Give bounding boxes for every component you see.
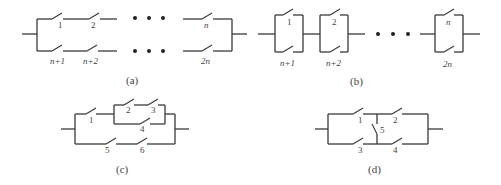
switch-label: 4: [393, 145, 398, 155]
switch-label: 6: [140, 145, 145, 155]
switch-icon: [353, 108, 363, 114]
switch-label: 5: [105, 145, 110, 155]
switch-icon: [106, 138, 116, 144]
switch-label: 2: [126, 105, 131, 115]
switch-label: 2: [393, 115, 398, 125]
panel-c-wires: [61, 105, 189, 144]
switch-icon: [330, 9, 340, 15]
switch-label: 2: [91, 20, 96, 30]
switch-label: 1: [287, 17, 292, 27]
switch-icon: [283, 9, 293, 15]
panel-a: 1 2 n n+1 n+2 2n (a): [22, 13, 247, 87]
panel-c-switches: [86, 99, 158, 144]
switch-label: 3: [151, 105, 156, 115]
panel-caption: (a): [126, 74, 139, 87]
switch-icon: [202, 13, 212, 19]
switch-icon: [283, 46, 293, 52]
switch-icon: [137, 138, 147, 144]
switch-icon: [353, 138, 363, 144]
panel-c: 1 2 3 4 5 6 (c): [61, 99, 189, 176]
switch-network-figure: 1 2 n n+1 n+2 2n (a): [0, 0, 501, 185]
switch-icon: [372, 124, 377, 134]
switch-label: n: [204, 20, 209, 30]
switch-label: 4: [140, 124, 145, 134]
panel-b-ellipsis: [376, 32, 410, 36]
panel-caption: (b): [350, 75, 363, 88]
switch-label: n+2: [326, 58, 342, 68]
switch-label: n+2: [83, 56, 99, 66]
switch-icon: [87, 45, 97, 51]
panel-caption: (d): [368, 163, 381, 176]
panel-d: 1 2 3 4 5 (d): [315, 108, 443, 176]
switch-icon: [52, 45, 62, 51]
panel-a-ellipsis: [133, 16, 165, 53]
switch-label: 2n: [201, 56, 211, 66]
switch-icon: [444, 46, 454, 52]
switch-label: n+1: [50, 56, 65, 66]
switch-icon: [52, 13, 62, 19]
switch-icon: [444, 9, 454, 15]
panel-caption: (c): [116, 163, 129, 176]
switch-label: 1: [358, 115, 363, 125]
panel-d-wires: [315, 114, 443, 144]
switch-icon: [202, 45, 212, 51]
switch-icon: [89, 13, 99, 19]
panel-b: 1 2 n n+1 n+2 2n (b): [258, 9, 480, 88]
switch-icon: [392, 108, 402, 114]
switch-label: 5: [380, 125, 385, 135]
switch-label: 1: [89, 115, 94, 125]
switch-icon: [86, 108, 96, 114]
switch-icon: [392, 138, 402, 144]
panel-b-switches: [283, 9, 454, 52]
switch-label: n+1: [280, 58, 295, 68]
switch-label: 1: [58, 20, 63, 30]
switch-label: 2: [332, 17, 337, 27]
switch-icon: [330, 46, 340, 52]
switch-label: 3: [358, 145, 363, 155]
switch-label: n: [446, 17, 451, 27]
panel-a-wires: [22, 19, 247, 51]
switch-label: 2n: [443, 59, 453, 69]
